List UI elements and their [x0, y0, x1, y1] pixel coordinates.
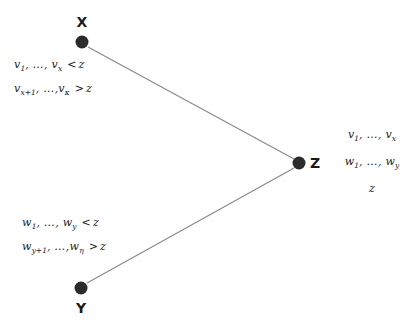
formula-z-pivot-value: z	[332, 182, 412, 195]
formula-separator: ,	[36, 216, 40, 229]
node-z-dot[interactable]	[293, 157, 306, 170]
formula-separator: ,	[44, 58, 48, 71]
formula-compare-value: z	[86, 82, 92, 95]
formula-token: w	[22, 216, 32, 229]
formula-token: w	[385, 155, 395, 168]
formula-separator: ,	[25, 58, 29, 71]
formula-separator: ,	[378, 155, 382, 168]
formula-subscript: y	[395, 161, 399, 170]
formula-compare-value: z	[79, 58, 85, 71]
formula-compare-value: z	[93, 216, 99, 229]
formula-token: w	[22, 240, 32, 253]
edge-x-to-z	[88, 47, 294, 159]
formula-y-greater-than-z: wy+1, …,wη>z	[22, 240, 106, 255]
formula-ellipsis: …	[54, 240, 66, 253]
formula-separator: ,	[359, 128, 363, 141]
formula-subscript: x	[392, 134, 396, 143]
formula-compare-value: z	[100, 240, 106, 253]
formula-ellipsis: …	[367, 155, 379, 168]
edge-y-to-z	[87, 168, 294, 283]
z-merged-set: v1, …, vx w1, …, wy z	[332, 128, 412, 195]
formula-subscript: κ	[65, 88, 70, 97]
formula-operator: <	[62, 58, 78, 71]
formula-subscript: η	[79, 246, 84, 255]
diagram-canvas: X Y Z v1, …, vx<z vx+1, …,vκ>z w1, …, wy…	[0, 0, 419, 326]
node-z-label: Z	[310, 155, 320, 171]
formula-x-less-than-z: v1, …, vx<z	[14, 58, 85, 73]
formula-operator: <	[77, 216, 93, 229]
formula-separator: ,	[47, 240, 51, 253]
formula-token: w	[345, 155, 355, 168]
formula-separator: ,	[55, 216, 59, 229]
formula-subscript: y	[72, 222, 76, 231]
node-x-label: X	[77, 14, 88, 30]
formula-token: w	[70, 240, 80, 253]
formula-subscript: y+1	[32, 246, 47, 255]
formula-y-less-than-z: w1, …, wy<z	[22, 216, 99, 231]
formula-separator: ,	[359, 155, 363, 168]
formula-ellipsis: …	[33, 58, 45, 71]
formula-z-w-set: w1, …, wy	[332, 155, 412, 170]
formula-token: w	[63, 216, 73, 229]
node-y-dot[interactable]	[75, 282, 88, 295]
formula-separator: ,	[36, 82, 40, 95]
formula-subscript: x+1	[20, 88, 35, 97]
formula-operator: >	[70, 82, 86, 95]
formula-x-greater-than-z: vx+1, …,vκ>z	[14, 82, 92, 97]
formula-ellipsis: …	[367, 128, 379, 141]
formula-ellipsis: …	[44, 216, 56, 229]
node-x-dot[interactable]	[76, 36, 89, 49]
formula-separator: ,	[378, 128, 382, 141]
formula-operator: >	[84, 240, 100, 253]
formula-ellipsis: …	[43, 82, 55, 95]
formula-z-v-set: v1, …, vx	[332, 128, 412, 143]
node-y-label: Y	[76, 300, 86, 316]
